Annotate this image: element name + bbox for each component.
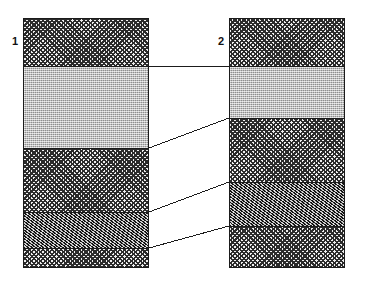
bed-2-3 (230, 118, 344, 182)
bed-1-4 (24, 212, 148, 248)
correlation-line-2 (149, 118, 229, 148)
bed-2-2 (230, 66, 344, 118)
column-2-label: 2 (218, 36, 224, 47)
bed-2-1 (230, 18, 344, 66)
correlation-line-3 (149, 182, 229, 212)
correlation-line-4 (149, 226, 229, 248)
bed-1-1 (24, 18, 148, 66)
section-column-2 (229, 18, 345, 268)
column-1-label: 1 (12, 36, 18, 47)
bed-1-3 (24, 148, 148, 212)
section-column-1 (23, 18, 149, 268)
bed-1-5 (24, 248, 148, 268)
bed-1-2 (24, 66, 148, 148)
bed-2-4 (230, 182, 344, 226)
stratigraphic-correlation-figure: 1 2 Source: Nicole Webb (0, 0, 381, 287)
bed-2-5 (230, 226, 344, 268)
